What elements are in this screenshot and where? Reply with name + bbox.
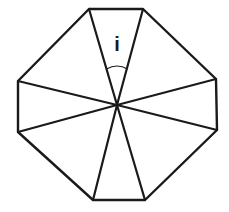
- spoke-7: [18, 105, 117, 132]
- spoke-2: [117, 9, 143, 105]
- spoke-5: [117, 105, 145, 200]
- spoke-1: [89, 9, 117, 105]
- spoke-3: [117, 79, 216, 105]
- spoke-6: [93, 105, 117, 200]
- angle-arc: [107, 66, 128, 69]
- spoke-4: [117, 105, 217, 130]
- octagon-diagram: i: [0, 0, 229, 212]
- angle-label: i: [114, 33, 120, 55]
- spoke-8: [18, 81, 117, 105]
